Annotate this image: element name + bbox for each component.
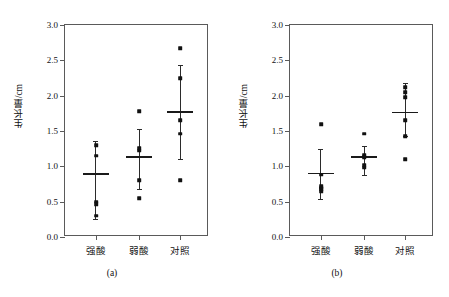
data-point	[137, 109, 141, 113]
data-point	[94, 203, 98, 207]
x-axis-label-a-0: 强酸	[86, 243, 106, 257]
data-point	[178, 132, 182, 136]
data-point	[178, 47, 182, 51]
y-tick-label-a-0: 0.0	[47, 232, 58, 242]
y-tick-b-1	[285, 202, 290, 203]
x-axis-label-b-1: 弱酸	[354, 243, 374, 257]
data-point	[319, 173, 323, 177]
x-axis-label-a-2: 对照	[170, 243, 190, 257]
figure-container: 生长量/cm 0.00.51.01.52.02.53.0强酸弱酸对照 (a) 生…	[0, 0, 449, 297]
error-bar-line	[95, 141, 96, 219]
y-tick-label-b-1: 0.5	[272, 197, 283, 207]
data-point	[403, 95, 407, 99]
x-tick-a-0	[96, 235, 97, 240]
error-bar-cap-top	[403, 83, 408, 84]
y-tick-a-4	[60, 96, 65, 97]
mean-marker	[126, 156, 152, 158]
data-point	[403, 90, 407, 94]
data-point	[178, 119, 182, 123]
y-tick-a-0	[60, 237, 65, 238]
panel-caption-a: (a)	[0, 268, 224, 278]
y-axis-label-a: 生长量/cm	[14, 84, 28, 128]
y-tick-b-2	[285, 166, 290, 167]
panel-caption-b: (b)	[225, 268, 449, 278]
y-tick-label-b-5: 2.5	[272, 55, 283, 65]
plot-area-a: 0.00.51.01.52.02.53.0强酸弱酸对照	[64, 24, 208, 236]
x-tick-a-2	[180, 235, 181, 240]
data-point	[137, 149, 141, 153]
data-point	[319, 189, 323, 193]
x-axis-label-b-2: 对照	[395, 243, 415, 257]
y-tick-label-b-3: 1.5	[272, 126, 283, 136]
error-bar-cap-bottom	[318, 199, 323, 200]
data-point	[94, 214, 98, 218]
data-point	[403, 134, 407, 138]
x-axis-label-b-0: 强酸	[311, 243, 331, 257]
data-point	[362, 155, 366, 159]
y-tick-b-5	[285, 60, 290, 61]
x-axis-label-a-1: 弱酸	[129, 243, 149, 257]
data-point	[319, 122, 323, 126]
y-tick-label-b-2: 1.0	[272, 161, 283, 171]
data-point	[178, 179, 182, 183]
data-point	[403, 157, 407, 161]
x-tick-a-1	[139, 235, 140, 240]
data-point	[403, 85, 407, 89]
y-tick-a-3	[60, 131, 65, 132]
data-point	[362, 132, 366, 136]
error-bar-cap-top	[137, 129, 142, 130]
data-point	[94, 154, 98, 158]
data-point	[94, 143, 98, 147]
error-bar-cap-top	[362, 146, 367, 147]
y-tick-label-b-4: 2.0	[272, 91, 283, 101]
error-bar-line	[364, 146, 365, 175]
error-bar-cap-bottom	[178, 159, 183, 160]
x-tick-b-2	[405, 235, 406, 240]
error-bar-cap-bottom	[362, 175, 367, 176]
error-bar-cap-top	[93, 141, 98, 142]
panel-a: 生长量/cm 0.00.51.01.52.02.53.0强酸弱酸对照 (a)	[0, 0, 224, 297]
mean-marker	[167, 111, 193, 113]
y-tick-b-3	[285, 131, 290, 132]
y-tick-a-1	[60, 202, 65, 203]
mean-marker	[83, 173, 109, 175]
data-point	[137, 179, 141, 183]
y-tick-label-a-1: 0.5	[47, 197, 58, 207]
error-bar-cap-top	[318, 149, 323, 150]
y-tick-label-a-2: 1.0	[47, 161, 58, 171]
x-tick-b-0	[321, 235, 322, 240]
y-tick-label-b-0: 0.0	[272, 232, 283, 242]
y-tick-label-a-5: 2.5	[47, 55, 58, 65]
error-bar-cap-top	[178, 65, 183, 66]
data-point	[178, 76, 182, 80]
y-tick-label-b-6: 3.0	[272, 20, 283, 30]
y-tick-b-6	[285, 25, 290, 26]
plot-area-b: 0.00.51.01.52.02.53.0强酸弱酸对照	[289, 24, 433, 236]
data-point	[403, 119, 407, 123]
data-point	[137, 196, 141, 200]
error-bar-cap-bottom	[93, 219, 98, 220]
y-tick-label-a-3: 1.5	[47, 126, 58, 136]
y-tick-label-a-6: 3.0	[47, 20, 58, 30]
panel-b: 生长量/cm 0.00.51.01.52.02.53.0强酸弱酸对照 (b)	[225, 0, 449, 297]
y-tick-b-0	[285, 237, 290, 238]
y-axis-label-b: 生长量/cm	[239, 84, 253, 128]
y-tick-a-6	[60, 25, 65, 26]
error-bar-cap-bottom	[137, 189, 142, 190]
y-tick-a-2	[60, 166, 65, 167]
y-tick-b-4	[285, 96, 290, 97]
data-point	[362, 166, 366, 170]
x-tick-b-1	[364, 235, 365, 240]
y-tick-label-a-4: 2.0	[47, 91, 58, 101]
y-tick-a-5	[60, 60, 65, 61]
mean-marker	[392, 112, 418, 114]
